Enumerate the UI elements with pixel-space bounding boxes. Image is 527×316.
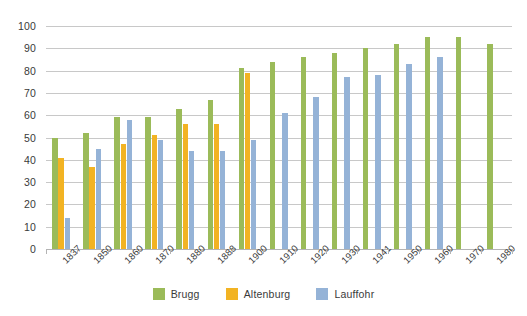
legend-label: Altenburg: [244, 288, 291, 300]
bar-group: [363, 26, 382, 249]
y-tick-label: 50: [24, 132, 36, 144]
y-tick-label: 100: [18, 20, 36, 32]
legend-item-brugg[interactable]: Brugg: [153, 288, 200, 300]
bar-lauffohr-1900[interactable]: [251, 140, 256, 249]
bar-brugg-1860[interactable]: [114, 117, 119, 249]
bar-group: [176, 26, 195, 249]
bar-lauffohr-1880[interactable]: [189, 151, 194, 249]
x-tick-mark: [450, 249, 451, 254]
x-tick-mark: [46, 249, 47, 254]
x-tick-mark: [295, 249, 296, 254]
bar-group: [83, 26, 102, 249]
legend-item-altenburg[interactable]: Altenburg: [226, 288, 291, 300]
legend-swatch-icon: [316, 288, 328, 300]
bar-altenburg-1860[interactable]: [121, 144, 126, 249]
x-tick-mark: [77, 249, 78, 254]
bar-lauffohr-1950[interactable]: [406, 64, 411, 249]
bar-brugg-1980[interactable]: [487, 44, 492, 249]
x-tick-mark: [139, 249, 140, 254]
bar-brugg-1920[interactable]: [301, 57, 306, 249]
legend-label: Lauffohr: [334, 288, 374, 300]
y-tick-label: 20: [24, 198, 36, 210]
bar-lauffohr-1960[interactable]: [437, 57, 442, 249]
y-tick-label: 30: [24, 176, 36, 188]
bar-altenburg-1888[interactable]: [214, 124, 219, 249]
bar-altenburg-1870[interactable]: [152, 135, 157, 249]
bar-brugg-1870[interactable]: [145, 117, 150, 249]
y-tick-label: 60: [24, 109, 36, 121]
bar-group: [145, 26, 164, 249]
bar-lauffohr-1870[interactable]: [158, 140, 163, 249]
bar-brugg-1960[interactable]: [425, 37, 430, 249]
bar-altenburg-1900[interactable]: [245, 73, 250, 249]
y-tick-label: 90: [24, 42, 36, 54]
bar-lauffohr-1920[interactable]: [313, 97, 318, 249]
bar-altenburg-1880[interactable]: [183, 124, 188, 249]
bar-chart: 0102030405060708090100 18371850186018701…: [0, 0, 527, 316]
bar-brugg-1888[interactable]: [208, 100, 213, 249]
bar-brugg-1837[interactable]: [52, 138, 57, 250]
bar-lauffohr-1837[interactable]: [65, 218, 70, 249]
x-tick-mark: [201, 249, 202, 254]
legend-swatch-icon: [226, 288, 238, 300]
bar-altenburg-1837[interactable]: [58, 158, 63, 249]
bar-lauffohr-1850[interactable]: [96, 149, 101, 249]
bar-lauffohr-1888[interactable]: [220, 151, 225, 249]
legend-label: Brugg: [171, 288, 200, 300]
y-axis: 0102030405060708090100: [0, 26, 42, 249]
bar-brugg-1880[interactable]: [176, 109, 181, 249]
bar-group: [425, 26, 444, 249]
bar-lauffohr-1941[interactable]: [375, 75, 380, 249]
legend-swatch-icon: [153, 288, 165, 300]
bar-brugg-1950[interactable]: [394, 44, 399, 249]
x-tick-mark: [481, 249, 482, 254]
y-tick-label: 70: [24, 87, 36, 99]
bar-brugg-1900[interactable]: [239, 68, 244, 249]
y-tick-label: 0: [30, 243, 36, 255]
bar-lauffohr-1860[interactable]: [127, 120, 132, 249]
bar-brugg-1850[interactable]: [83, 133, 88, 249]
bar-group: [456, 26, 475, 249]
y-tick-label: 40: [24, 154, 36, 166]
bar-group: [52, 26, 71, 249]
legend-item-lauffohr[interactable]: Lauffohr: [316, 288, 374, 300]
bar-lauffohr-1910[interactable]: [282, 113, 287, 249]
x-tick-mark: [388, 249, 389, 254]
x-tick-mark: [326, 249, 327, 254]
bar-group: [208, 26, 227, 249]
bar-group: [487, 26, 506, 249]
x-tick-mark: [232, 249, 233, 254]
x-tick-mark: [357, 249, 358, 254]
y-tick-label: 10: [24, 221, 36, 233]
x-tick-mark: [419, 249, 420, 254]
bar-brugg-1941[interactable]: [363, 48, 368, 249]
bar-group: [301, 26, 320, 249]
bar-group: [270, 26, 289, 249]
bar-group: [332, 26, 351, 249]
bar-altenburg-1850[interactable]: [89, 167, 94, 250]
x-axis: 1837185018601870188018881900191019201930…: [46, 254, 512, 286]
bar-brugg-1910[interactable]: [270, 62, 275, 249]
bar-brugg-1970[interactable]: [456, 37, 461, 249]
y-tick-label: 80: [24, 65, 36, 77]
bar-lauffohr-1930[interactable]: [344, 77, 349, 249]
x-tick-mark: [512, 249, 513, 254]
bar-group: [239, 26, 258, 249]
bars-layer: [46, 26, 512, 249]
bar-group: [114, 26, 133, 249]
x-tick-mark: [108, 249, 109, 254]
bar-group: [394, 26, 413, 249]
chart-legend: BruggAltenburgLauffohr: [0, 288, 527, 300]
x-tick-mark: [170, 249, 171, 254]
x-tick-mark: [263, 249, 264, 254]
bar-brugg-1930[interactable]: [332, 53, 337, 249]
